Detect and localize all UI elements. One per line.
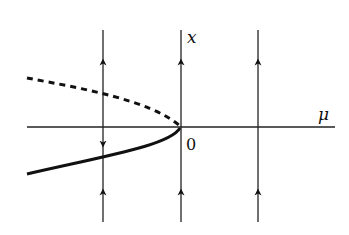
mu-axis-label: μ <box>318 104 329 124</box>
x-axis-label: x <box>187 27 197 47</box>
bifurcation-diagram: x μ 0 <box>0 0 349 235</box>
origin-label: 0 <box>186 135 196 154</box>
